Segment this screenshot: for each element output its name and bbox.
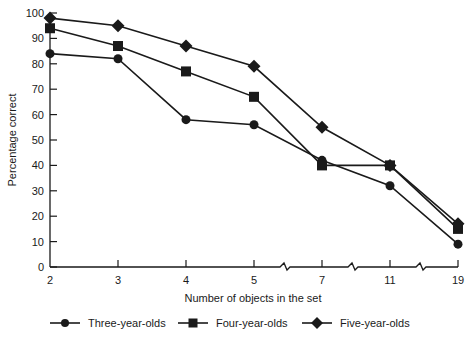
x-tick-label: 11 — [384, 274, 395, 286]
diamond-marker-icon — [311, 317, 323, 329]
x-tick-label: 5 — [251, 274, 257, 286]
y-tick-label: 60 — [32, 109, 44, 121]
circle-marker-icon — [46, 49, 55, 58]
y-tick-label: 80 — [32, 58, 44, 70]
square-marker-icon — [317, 160, 327, 170]
x-axis: 234571119 — [47, 260, 464, 286]
y-axis: 0102030405060708090100 — [26, 7, 57, 273]
y-tick-label: 100 — [26, 7, 44, 19]
legend: Three-year-oldsFour-year-oldsFive-year-o… — [50, 317, 410, 329]
y-tick-label: 10 — [32, 236, 44, 248]
x-tick-label: 4 — [183, 274, 189, 286]
series-three-year-olds — [46, 49, 463, 249]
legend-item: Three-year-olds — [50, 317, 166, 329]
y-tick-label: 20 — [32, 210, 44, 222]
circle-marker-icon — [61, 319, 69, 327]
line-chart: 0102030405060708090100 234571119 Percent… — [0, 0, 473, 342]
legend-label: Three-year-olds — [88, 317, 166, 329]
legend-label: Five-year-olds — [340, 317, 410, 329]
y-axis-label: Percentage correct — [6, 94, 18, 187]
x-axis-label: Number of objects in the set — [185, 292, 322, 304]
legend-label: Four-year-olds — [216, 317, 288, 329]
x-tick-label: 7 — [319, 274, 325, 286]
circle-marker-icon — [182, 115, 191, 124]
square-marker-icon — [181, 66, 191, 76]
y-tick-label: 40 — [32, 159, 44, 171]
series-group — [44, 12, 465, 249]
circle-marker-icon — [454, 240, 463, 249]
square-marker-icon — [113, 41, 123, 51]
y-tick-label: 0 — [38, 261, 44, 273]
x-tick-label: 19 — [452, 274, 464, 286]
diamond-marker-icon — [112, 19, 125, 32]
square-marker-icon — [189, 319, 198, 328]
square-marker-icon — [249, 92, 259, 102]
legend-item: Five-year-olds — [302, 317, 410, 329]
circle-marker-icon — [386, 181, 395, 190]
y-tick-label: 50 — [32, 134, 44, 146]
x-tick-label: 3 — [115, 274, 121, 286]
x-tick-label: 2 — [47, 274, 53, 286]
legend-item: Four-year-olds — [178, 317, 288, 329]
square-marker-icon — [45, 23, 55, 33]
y-tick-label: 90 — [32, 32, 44, 44]
y-tick-label: 30 — [32, 185, 44, 197]
circle-marker-icon — [114, 54, 123, 63]
circle-marker-icon — [250, 120, 259, 129]
y-tick-label: 70 — [32, 83, 44, 95]
diamond-marker-icon — [180, 40, 193, 53]
